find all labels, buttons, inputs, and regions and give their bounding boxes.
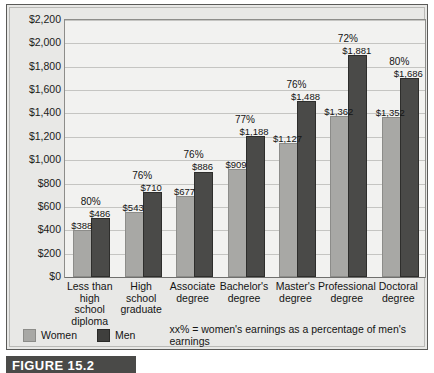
- y-axis-tick-label: $400: [7, 224, 61, 234]
- y-axis-tick-label: $200: [7, 248, 61, 258]
- percent-annotation: 76%: [276, 80, 316, 90]
- x-axis-category-line: degree: [366, 293, 430, 305]
- y-axis-tick-label: $2,200: [7, 14, 61, 24]
- y-axis-tick-label: $1,400: [7, 107, 61, 117]
- bar-value-label-men: $1,881: [336, 46, 378, 56]
- bar-women: [176, 196, 195, 277]
- percent-annotation: 77%: [225, 115, 265, 125]
- bar-value-label-women: $388: [62, 221, 102, 231]
- bar-value-label-women: $1,362: [319, 107, 359, 117]
- bar-value-label-women: $1,127: [267, 134, 307, 144]
- bar-women: [228, 169, 247, 277]
- y-axis-tick-labels: $2,200$2,000$1,800$1,600$1,400$1,200$1,0…: [7, 19, 61, 278]
- bar-women: [73, 230, 92, 277]
- bar-men: [348, 55, 367, 277]
- y-axis-tick-label: $800: [7, 178, 61, 188]
- chart-legend: Women Men xx% = women's earnings as a pe…: [23, 325, 427, 345]
- x-axis-category-line: graduate: [109, 304, 173, 316]
- figure-frame: $2,200$2,000$1,800$1,600$1,400$1,200$1,0…: [6, 4, 428, 350]
- bar-women: [279, 143, 298, 277]
- legend-label-men: Men: [115, 329, 135, 341]
- x-axis-baseline: [65, 277, 425, 278]
- legend-percent-note: xx% = women's earnings as a percentage o…: [169, 323, 427, 347]
- legend-label-women: Women: [41, 329, 77, 341]
- y-axis-tick-label: $0: [7, 271, 61, 281]
- percent-annotation: 72%: [328, 34, 368, 44]
- bar-value-label-men: $1,488: [284, 92, 326, 102]
- y-axis-tick-label: $1,200: [7, 131, 61, 141]
- legend-item-men: Men: [97, 329, 135, 342]
- gridline: [65, 20, 425, 21]
- bar-value-label-men: $1,686: [387, 69, 429, 79]
- legend-swatch-men-icon: [97, 329, 110, 342]
- percent-annotation: 76%: [174, 150, 214, 160]
- bar-men: [297, 101, 316, 277]
- figure-caption-bar: FIGURE 15.2: [6, 356, 136, 373]
- percent-annotation: 80%: [71, 197, 111, 207]
- gridline: [65, 67, 425, 68]
- x-axis-category-label: Doctoraldegree: [366, 281, 430, 304]
- bar-value-label-women: $543: [113, 203, 153, 213]
- x-axis-category-line: Doctoral: [366, 281, 430, 293]
- bar-value-label-women: $677: [165, 187, 205, 197]
- bar-men: [246, 136, 265, 277]
- percent-annotation: 76%: [122, 171, 162, 181]
- bar-women: [382, 117, 401, 277]
- bar-value-label-women: $909: [216, 160, 256, 170]
- chart-screenshot: $2,200$2,000$1,800$1,600$1,400$1,200$1,0…: [0, 0, 434, 373]
- bar-women: [125, 212, 144, 277]
- plot-area: $388$48680%$543$71076%$677$88676%$909$1,…: [64, 19, 426, 278]
- y-axis-tick-label: $2,000: [7, 37, 61, 47]
- y-axis-tick-label: $1,600: [7, 84, 61, 94]
- y-axis-tick-label: $1,800: [7, 61, 61, 71]
- bar-value-label-women: $1,352: [370, 108, 410, 118]
- figure-caption-label: FIGURE 15.2: [12, 358, 94, 373]
- legend-swatch-women-icon: [23, 329, 36, 342]
- percent-annotation: 80%: [379, 57, 419, 67]
- bar-women: [330, 116, 349, 277]
- y-axis-tick-label: $1,000: [7, 154, 61, 164]
- gridline: [65, 43, 425, 44]
- gridline: [65, 90, 425, 91]
- y-axis-tick-label: $600: [7, 201, 61, 211]
- legend-item-women: Women: [23, 329, 77, 342]
